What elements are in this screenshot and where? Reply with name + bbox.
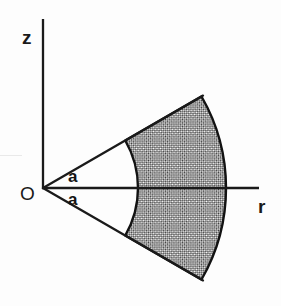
- upper-angle-label: a: [68, 168, 77, 185]
- diagram-canvas: z r O a a: [0, 0, 281, 306]
- lower-angle-label: a: [68, 191, 77, 208]
- diagram-svg: [0, 0, 281, 306]
- z-axis-label: z: [22, 28, 32, 47]
- r-axis-label: r: [258, 197, 265, 216]
- origin-label: O: [20, 184, 35, 203]
